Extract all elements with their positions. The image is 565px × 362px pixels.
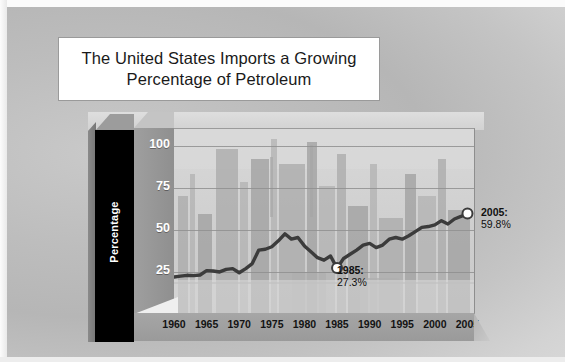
x-tick-1970: 1970: [222, 318, 256, 330]
x-tick-2000: 2000: [418, 318, 452, 330]
x-axis-band: 1960196519701975198019851990199520002005: [134, 313, 474, 341]
title-box: The United States Imports a Growing Perc…: [58, 37, 380, 101]
slide-edge-bottom: [0, 357, 565, 362]
x-tick-1965: 1965: [190, 318, 224, 330]
marker-2005: [462, 208, 472, 218]
x-tick-1995: 1995: [385, 318, 419, 330]
y-tick-25: 25: [156, 263, 170, 277]
x-tick-1960: 1960: [157, 318, 191, 330]
series-polyline: [174, 213, 467, 277]
annotation-2005: 2005: 59.8%: [481, 207, 511, 231]
page-title: The United States Imports a Growing Perc…: [74, 48, 365, 90]
annotation-1985: 1985: 27.3%: [337, 265, 367, 289]
x-tick-1990: 1990: [353, 318, 387, 330]
x-tick-1980: 1980: [287, 318, 321, 330]
y-tick-75: 75: [156, 179, 170, 193]
y-tick-100: 100: [149, 137, 170, 151]
chart-container: Percentage 0255075100: [88, 112, 488, 352]
annotation-2005-value: 59.8%: [481, 219, 511, 231]
x-tick-1975: 1975: [255, 318, 289, 330]
y-axis-label: Percentage: [108, 182, 120, 282]
annotation-2005-year: 2005:: [481, 207, 511, 219]
y-axis-scale: 0255075100: [134, 128, 174, 313]
x-tick-1985: 1985: [320, 318, 354, 330]
y-axis-title-band: Percentage: [95, 130, 134, 342]
y-tick-50: 50: [156, 221, 170, 235]
annotation-1985-year: 1985:: [337, 265, 367, 277]
slide-edge-top: [0, 0, 565, 7]
annotation-1985-value: 27.3%: [337, 277, 367, 289]
data-line: [174, 129, 474, 314]
slide-canvas: The United States Imports a Growing Perc…: [0, 0, 565, 362]
slide-edge-left: [0, 0, 7, 362]
plot-area: [174, 128, 475, 314]
